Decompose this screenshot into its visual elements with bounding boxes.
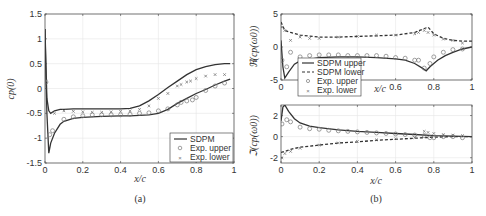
svg-text:0.8: 0.8 (428, 82, 441, 92)
svg-text:1.5: 1.5 (29, 9, 42, 19)
svg-text:-0.5: -0.5 (26, 108, 42, 118)
svg-text:0.8: 0.8 (190, 165, 203, 175)
svg-text:0: 0 (278, 82, 283, 92)
caption-a: (a) (134, 193, 145, 205)
legend-b: SDPM upper SDPM lower Exp. upper × Exp. … (298, 58, 366, 96)
panel-b-top-ylabel: ℜ(cp(ω0)) (248, 25, 260, 68)
svg-text:1: 1 (469, 165, 474, 175)
svg-text:0: 0 (273, 132, 278, 142)
caption-b: (b) (370, 193, 382, 205)
panel-b-bottom-chart: 00.20.40.60.81-202 (270, 105, 475, 175)
svg-text:-2: -2 (270, 153, 278, 163)
svg-text:×: × (306, 88, 310, 94)
figure: 00.20.40.60.81-1.5-1-0.500.511.5 00.60.8… (0, 0, 486, 216)
panel-a-xlabel: x/c (133, 173, 146, 184)
svg-text:0.6: 0.6 (152, 165, 165, 175)
svg-text:1: 1 (231, 165, 236, 175)
svg-text:0: 0 (278, 165, 283, 175)
legend-a: SDPM Exp. upper × Exp. lower (170, 133, 233, 162)
svg-text:2: 2 (273, 111, 278, 121)
svg-text:1: 1 (469, 82, 474, 92)
svg-text:0.4: 0.4 (114, 165, 127, 175)
svg-text:-1: -1 (34, 133, 42, 143)
svg-text:0.4: 0.4 (351, 165, 364, 175)
svg-text:0.8: 0.8 (428, 165, 441, 175)
svg-text:×: × (178, 155, 182, 161)
legend-a-exp-lower: Exp. lower (190, 152, 230, 162)
svg-text:0.2: 0.2 (313, 165, 326, 175)
panel-b-bottom-xlabel: x/c (369, 175, 382, 186)
svg-text:-1.5: -1.5 (26, 158, 42, 168)
legend-b-exp-lower: Exp. lower (317, 85, 357, 95)
svg-text:5: 5 (273, 9, 278, 19)
svg-text:0: 0 (273, 42, 278, 52)
panel-b-bottom-ylabel: ℑ(cp(ω0)) (248, 114, 260, 156)
panel-b-top-xlabel: x/c (373, 83, 386, 94)
svg-text:0: 0 (42, 165, 47, 175)
svg-text:0: 0 (37, 84, 42, 94)
svg-text:-5: -5 (270, 75, 278, 85)
svg-text:0.5: 0.5 (29, 59, 42, 69)
svg-text:0.2: 0.2 (77, 165, 90, 175)
svg-text:0.6: 0.6 (389, 165, 402, 175)
panel-a-ylabel: cp(0) (5, 78, 17, 100)
svg-text:0.6: 0.6 (389, 82, 402, 92)
svg-text:1: 1 (37, 34, 42, 44)
